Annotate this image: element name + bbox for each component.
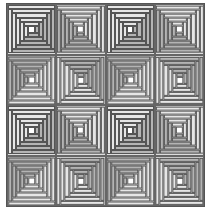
quilt-center-square	[78, 26, 85, 33]
quilt-log	[8, 157, 51, 161]
quilt-log	[123, 138, 142, 142]
quilt-log	[133, 173, 137, 184]
quilt-log	[88, 68, 92, 87]
quilt-log	[137, 68, 141, 87]
quilt-log	[65, 146, 97, 150]
quilt-log	[183, 123, 187, 138]
quilt-log	[8, 100, 55, 104]
quilt-block	[56, 156, 105, 207]
quilt-log	[172, 68, 187, 72]
quilt-log	[51, 56, 55, 100]
quilt-log	[107, 201, 154, 205]
quilt-log	[107, 56, 150, 60]
quilt-block	[56, 4, 105, 55]
quilt-log	[12, 60, 47, 64]
quilt-log	[172, 37, 187, 41]
quilt-center-square	[127, 26, 134, 33]
quilt-log	[65, 95, 101, 99]
quilt-log	[39, 123, 43, 138]
quilt-block	[106, 55, 155, 106]
quilt-log	[159, 157, 199, 161]
quilt-log	[176, 173, 183, 177]
quilt-log	[115, 64, 142, 68]
quilt-log	[115, 45, 150, 49]
quilt-log	[51, 157, 55, 201]
quilt-log	[187, 68, 191, 87]
quilt-log	[159, 56, 199, 60]
quilt-center-square	[28, 26, 35, 33]
quilt-log	[191, 165, 195, 192]
quilt-log	[61, 56, 101, 60]
quilt-log	[69, 41, 92, 45]
quilt-log	[168, 64, 191, 68]
quilt-log	[43, 64, 47, 92]
quilt-log	[191, 115, 195, 146]
quilt-log	[115, 165, 142, 169]
quilt-log	[97, 111, 101, 150]
quilt-log	[137, 123, 141, 138]
quilt-log	[24, 173, 35, 177]
quilt-log	[73, 68, 88, 72]
quilt-log	[47, 13, 51, 45]
quilt-log	[195, 111, 199, 150]
quilt-log	[35, 173, 39, 184]
quilt-log	[78, 83, 89, 87]
quilt-log	[97, 10, 101, 49]
quilt-log	[137, 22, 141, 37]
quilt-log	[12, 161, 47, 165]
quilt-center-square	[176, 26, 183, 33]
quilt-log	[123, 76, 127, 83]
quilt-log	[115, 146, 150, 150]
quilt-log	[115, 91, 146, 95]
quilt-log	[146, 161, 150, 197]
quilt-log	[199, 6, 203, 53]
quilt-log	[172, 138, 187, 142]
quilt-log	[111, 64, 115, 96]
quilt-log	[176, 72, 183, 76]
quilt-log	[69, 142, 92, 146]
quilt-log	[35, 26, 39, 33]
quilt-log	[61, 200, 105, 204]
quilt-log	[172, 87, 191, 91]
quilt-log	[20, 68, 39, 72]
quilt-log	[119, 72, 123, 87]
quilt-log	[20, 169, 39, 173]
quilt-log	[16, 64, 43, 68]
quilt-log	[119, 169, 138, 173]
quilt-log	[187, 169, 191, 188]
quilt-log	[127, 33, 138, 37]
quilt-center-square	[127, 127, 134, 134]
quilt-block	[155, 105, 204, 156]
quilt-log	[164, 146, 196, 150]
quilt-log	[168, 192, 196, 196]
quilt-log	[101, 56, 105, 99]
quilt-log	[73, 138, 88, 142]
quilt-log	[73, 169, 88, 173]
quilt-log	[123, 37, 142, 41]
quilt-log	[163, 60, 195, 64]
quilt-log	[12, 49, 55, 53]
quilt-log	[43, 119, 47, 142]
quilt-log	[111, 165, 115, 197]
quilt-log	[8, 56, 51, 60]
quilt-block	[56, 55, 105, 106]
quilt-log	[199, 56, 203, 99]
quilt-log	[78, 72, 85, 76]
quilt-log	[163, 161, 195, 165]
quilt-log	[150, 9, 154, 49]
quilt-log	[146, 114, 150, 146]
quilt-log	[16, 165, 43, 169]
quilt-log	[172, 169, 187, 173]
quilt-block	[56, 105, 105, 156]
quilt-log	[199, 157, 203, 200]
quilt-log	[111, 96, 150, 100]
quilt-log	[93, 115, 97, 146]
quilt-log	[183, 72, 187, 83]
quilt-log	[142, 165, 146, 193]
quilt-log	[73, 37, 88, 41]
quilt-block	[7, 156, 56, 207]
quilt-log	[65, 60, 97, 64]
quilt-block	[7, 4, 56, 55]
quilt-log	[146, 13, 150, 45]
quilt-log	[78, 173, 85, 177]
